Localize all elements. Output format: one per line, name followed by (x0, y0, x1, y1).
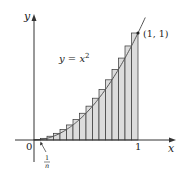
riemann-rectangle (86, 106, 93, 140)
point-1-1 (136, 31, 139, 34)
subinterval-denominator: n (45, 162, 49, 170)
riemann-sum-diagram: y x 0 1 (1, 1) y = x2 1 n (0, 0, 190, 180)
point-label: (1, 1) (143, 28, 169, 39)
y-axis-arrow-icon (32, 14, 37, 21)
function-label: y = x2 (58, 52, 90, 64)
x-axis-label: x (168, 142, 175, 155)
riemann-rectangle (80, 113, 87, 140)
riemann-rectangle (125, 46, 132, 140)
origin-label: 0 (26, 141, 32, 152)
subinterval-pointer-arrow-icon (40, 142, 43, 146)
y-axis-label: y (23, 10, 31, 23)
x-one-label: 1 (135, 141, 141, 152)
riemann-rectangle (112, 69, 119, 140)
riemann-rectangle (132, 33, 139, 140)
subinterval-numerator: 1 (45, 154, 49, 162)
riemann-rectangle (119, 58, 126, 140)
riemann-rectangles (34, 33, 138, 140)
